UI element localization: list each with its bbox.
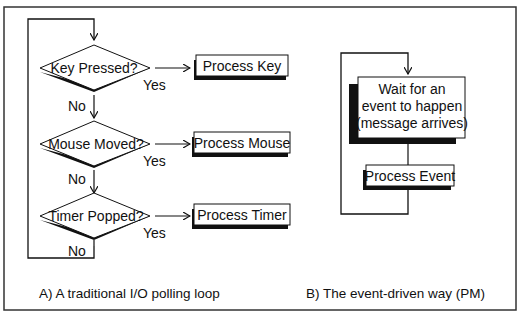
panel-a-polling-loop: Key Pressed? Yes No Process Key Mouse Mo…	[28, 19, 290, 301]
svg-text:Process Mouse: Process Mouse	[194, 135, 291, 151]
panel-b-event-driven: Wait for an event to happen (message arr…	[306, 53, 485, 301]
action-process-mouse: Process Mouse	[192, 132, 290, 157]
action-process-timer: Process Timer	[192, 204, 290, 229]
no-label: No	[68, 243, 86, 259]
svg-text:event to happen: event to happen	[362, 98, 462, 114]
svg-text:Process Event: Process Event	[365, 168, 455, 184]
flowchart-canvas: Key Pressed? Yes No Process Key Mouse Mo…	[0, 0, 521, 316]
decision-label: Mouse Moved?	[48, 136, 144, 152]
yes-label: Yes	[143, 225, 166, 241]
yes-label: Yes	[143, 77, 166, 93]
yes-label: Yes	[143, 153, 166, 169]
svg-text:(message arrives): (message arrives)	[356, 115, 468, 131]
action-process-key: Process Key	[194, 55, 288, 80]
decision-timer-popped: Timer Popped?	[40, 193, 150, 240]
wait-for-event-box: Wait for an event to happen (message arr…	[349, 77, 468, 144]
svg-text:Process Timer: Process Timer	[197, 207, 287, 223]
caption-a: A) A traditional I/O polling loop	[39, 286, 220, 301]
decision-key-pressed: Key Pressed?	[40, 45, 150, 92]
svg-text:Process Key: Process Key	[203, 58, 282, 74]
no-label: No	[68, 98, 86, 114]
no-label: No	[68, 171, 86, 187]
process-event-box: Process Event	[363, 165, 455, 190]
decision-label: Timer Popped?	[48, 208, 143, 224]
caption-b: B) The event-driven way (PM)	[306, 286, 485, 301]
decision-label: Key Pressed?	[50, 60, 137, 76]
svg-text:Wait for an: Wait for an	[378, 81, 445, 97]
decision-mouse-moved: Mouse Moved?	[40, 121, 150, 168]
